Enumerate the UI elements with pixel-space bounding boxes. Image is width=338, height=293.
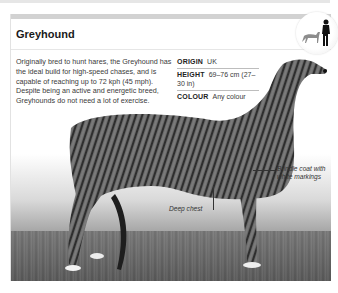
title-row: Greyhound <box>11 19 331 50</box>
fact-colour-key: COLOUR <box>177 93 209 100</box>
fact-height-key: HEIGHT <box>177 71 205 78</box>
size-comparison-badge <box>296 12 338 54</box>
fact-origin: ORIGINUK <box>177 56 259 69</box>
breed-panel: Greyhound <box>10 14 331 281</box>
callout-chest: Deep chest <box>169 205 213 213</box>
dog-vs-human-size-icon <box>296 12 338 54</box>
breed-description: Originally bred to hunt hares, the Greyh… <box>16 57 176 106</box>
callout-line-chest <box>213 186 214 210</box>
fact-colour-value: Any colour <box>213 93 246 100</box>
fact-origin-key: ORIGIN <box>177 58 203 65</box>
fact-colour: COLOURAny colour <box>177 91 259 103</box>
callout-coat: Brindle coat with white markings <box>277 165 333 181</box>
fact-height: HEIGHT69–76 cm (27–30 in) <box>177 69 259 91</box>
fact-origin-value: UK <box>207 58 217 65</box>
callout-line-coat <box>253 170 275 171</box>
breed-title: Greyhound <box>16 28 75 40</box>
top-rule <box>0 0 330 3</box>
breed-facts: ORIGINUK HEIGHT69–76 cm (27–30 in) COLOU… <box>177 56 259 103</box>
